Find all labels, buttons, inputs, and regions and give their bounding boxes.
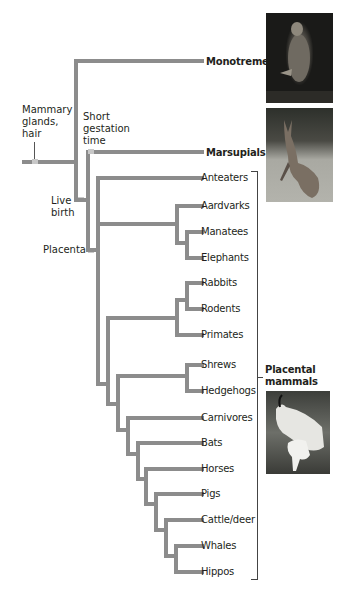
kangaroo-photo xyxy=(266,108,333,202)
mammary-pointer-line xyxy=(34,142,35,159)
branch-afrotheria-vertical xyxy=(175,204,179,244)
marker-mammary-glands xyxy=(32,159,38,164)
branch-primates xyxy=(175,333,204,337)
taxon-label: Aardvarks xyxy=(201,200,250,211)
label-marsupials: Marsupials xyxy=(206,147,265,158)
taxon-label: Pigs xyxy=(201,488,220,499)
goat-silhouette-icon xyxy=(266,391,330,474)
taxon-label: Whales xyxy=(201,540,236,551)
trait-placenta: Placenta xyxy=(43,244,86,256)
branch-hippos xyxy=(174,570,204,574)
marker-short-gestation xyxy=(88,149,94,154)
branch-ruminant-vertical xyxy=(164,518,168,558)
branch-marsupials xyxy=(86,150,204,154)
taxon-label: Shrews xyxy=(201,359,236,370)
trait-mammary-glands: Mammary glands, hair xyxy=(22,104,72,140)
mountain-goat-photo xyxy=(266,391,330,474)
branch-fereu-vertical xyxy=(136,441,140,481)
branch-pigs xyxy=(154,492,204,496)
branch-carnivores xyxy=(126,416,204,420)
branch-whales xyxy=(174,544,204,548)
branch-scrot-vertical xyxy=(126,416,130,456)
platypus-photo xyxy=(266,13,333,103)
kangaroo-silhouette-icon xyxy=(266,108,333,202)
label-monotremes: Monotremes xyxy=(206,56,274,67)
taxon-label: Horses xyxy=(201,463,234,474)
taxon-label: Hedgehogs xyxy=(201,385,256,396)
branch-vertical-boreo xyxy=(106,316,110,386)
branch-vertical-therians xyxy=(86,150,90,252)
branch-horses xyxy=(144,467,204,471)
platypus-silhouette-icon xyxy=(266,13,333,103)
label-placental-mammals: Placental mammals xyxy=(265,364,318,388)
taxon-label: Elephants xyxy=(201,252,249,263)
branch-ungulate-vertical xyxy=(144,467,148,506)
branch-euarchontoglires xyxy=(106,316,178,320)
branch-euarch-vertical xyxy=(175,298,179,337)
branch-bats xyxy=(136,441,204,445)
taxon-label: Bats xyxy=(201,437,222,448)
branch-root xyxy=(22,160,77,164)
taxon-label: Anteaters xyxy=(201,172,248,183)
taxon-label: Cattle/deer xyxy=(201,514,255,525)
taxon-label: Carnivores xyxy=(201,412,252,423)
branch-monotremes xyxy=(74,59,204,63)
branch-laurasia-vertical2 xyxy=(116,374,120,432)
branch-anteaters xyxy=(96,176,204,180)
taxon-label: Hippos xyxy=(201,566,234,577)
bracket-tick xyxy=(257,377,263,378)
branch-aardvarks xyxy=(175,204,204,208)
branch-cetart-vertical xyxy=(154,492,158,532)
trait-short-gestation: Short gestation time xyxy=(83,111,130,147)
branch-afrotheria xyxy=(96,222,178,226)
taxon-label: Primates xyxy=(201,329,243,340)
placental-bracket xyxy=(251,171,258,580)
taxon-label: Rodents xyxy=(201,303,240,314)
taxon-label: Manatees xyxy=(201,226,248,237)
branch-eulipotyphla xyxy=(116,374,188,378)
branch-cattle xyxy=(164,518,204,522)
branch-vertical-placentals xyxy=(96,176,100,386)
taxon-label: Rabbits xyxy=(201,277,237,288)
branch-vertical-mammals xyxy=(74,59,78,202)
trait-live-birth: Live birth xyxy=(51,195,75,219)
